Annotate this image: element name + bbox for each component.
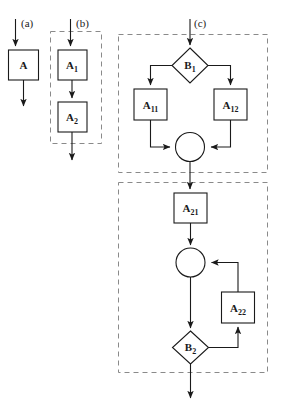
panel-c-merge-right-edge <box>211 120 231 147</box>
panel-c-branch-left-edge <box>151 66 173 86</box>
panel-a: (a) A <box>9 17 39 106</box>
node-a-activity-label: A <box>20 59 28 71</box>
panel-c-merge-left-edge <box>151 120 171 147</box>
panel-c-branch-right-edge <box>208 66 231 86</box>
panel-a-label: (a) <box>21 17 34 30</box>
node-c-merge-2-circle <box>176 248 205 277</box>
panel-c-label: (c) <box>194 17 207 30</box>
diagram-svg: (a) A (b) A1 A2 <box>0 0 285 407</box>
panel-c: (c) B1 A11 A12 <box>119 17 268 398</box>
node-c-merge-1-circle <box>176 133 205 162</box>
figure-canvas: (a) A (b) A1 A2 <box>0 0 285 407</box>
panel-c-loop-b2-to-a22-edge <box>209 327 239 348</box>
panel-c-loop-a22-to-merge2-edge <box>212 263 239 293</box>
panel-b: (b) A1 A2 <box>51 17 102 160</box>
panel-b-label: (b) <box>76 17 89 30</box>
